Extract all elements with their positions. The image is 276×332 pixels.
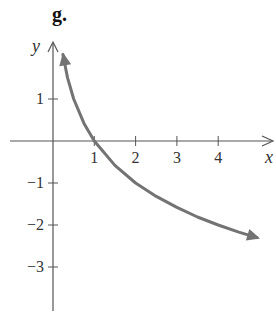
curve	[63, 55, 257, 238]
x-tick-label: 1	[90, 149, 98, 166]
x-tick-label: 2	[132, 149, 140, 166]
plot-area: 12341−1−2−3xy	[0, 0, 276, 332]
y-tick-label: −3	[27, 258, 44, 275]
x-tick-label: 3	[173, 149, 181, 166]
curve-arrow-up-icon	[59, 52, 71, 66]
y-axis-label: y	[30, 36, 40, 56]
x-tick-label: 4	[214, 149, 222, 166]
y-tick-label: −1	[27, 174, 44, 191]
figure: g. 12341−1−2−3xy	[0, 0, 276, 332]
y-tick-label: 1	[36, 90, 44, 107]
y-tick-label: −2	[27, 216, 44, 233]
x-axis-label: x	[264, 147, 273, 167]
curve-arrow-down-icon	[246, 229, 260, 240]
